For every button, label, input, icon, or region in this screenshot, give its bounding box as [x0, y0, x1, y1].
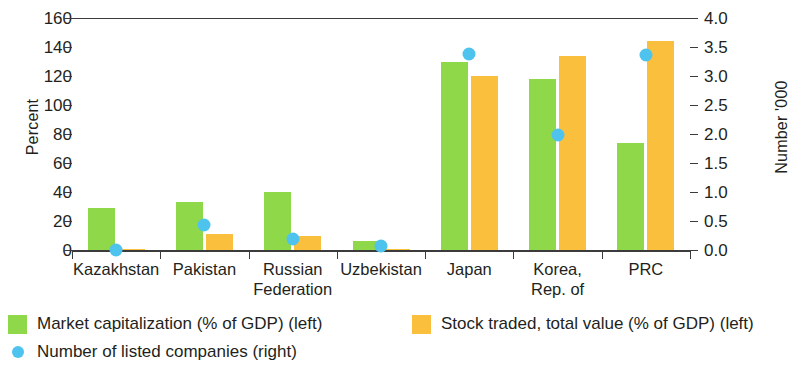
y-axis-right-tick-label: 1.5: [704, 155, 750, 172]
chart-figure: Percent Number '000 02040608010012014016…: [0, 0, 805, 366]
y-axis-right-tick-label: 0.0: [704, 242, 750, 259]
x-axis-tick-mark: [72, 250, 73, 259]
x-axis-tick-mark: [425, 250, 426, 259]
legend-item[interactable]: Market capitalization (% of GDP) (left): [8, 312, 322, 336]
y-axis-left-tick-mark: [64, 105, 72, 106]
y-axis-right-ticks: 0.00.51.01.52.02.53.03.54.0: [690, 18, 750, 250]
marker-listed-companies: [639, 49, 652, 62]
y-axis-left-tick-mark: [64, 47, 72, 48]
bar-group: [353, 18, 410, 250]
x-axis-category-label: Russian Federation: [253, 259, 332, 299]
marker-listed-companies: [551, 128, 564, 141]
plot-area: [72, 18, 690, 250]
y-axis-right-tick-label: 1.0: [704, 184, 750, 201]
marker-listed-companies: [463, 47, 476, 60]
y-axis-right-tick-mark: [690, 163, 698, 164]
y-axis-right-tick-label: 2.5: [704, 97, 750, 114]
marker-listed-companies: [198, 218, 211, 231]
y-axis-left-tick-mark: [64, 163, 72, 164]
bar-group: [441, 18, 498, 250]
bar-group: [176, 18, 233, 250]
legend-label: Number of listed companies (right): [37, 342, 297, 362]
x-axis-tick-mark: [513, 250, 514, 259]
bar-market-capitalization: [88, 208, 115, 250]
bar-market-capitalization: [441, 62, 468, 251]
x-axis-category-label: Japan: [447, 259, 492, 279]
legend-swatch-green-square-icon: [8, 315, 27, 334]
bar-group: [529, 18, 586, 250]
legend-row-secondary: Number of listed companies (right): [8, 340, 805, 364]
y-axis-left-tick-mark: [64, 192, 72, 193]
x-axis-category-label: Kazakhstan: [73, 259, 159, 279]
x-axis-tick-mark: [160, 250, 161, 259]
legend-item[interactable]: Stock traded, total value (% of GDP) (le…: [412, 312, 754, 336]
y-axis-right-tick-label: 4.0: [704, 10, 750, 27]
x-axis-category-label: PRC: [628, 259, 663, 279]
x-axis-tick-mark: [337, 250, 338, 259]
legend-swatch-blue-dot-icon: [12, 346, 24, 358]
x-axis-category-label: Pakistan: [173, 259, 236, 279]
y-axis-left-ticks: 020406080100120140160: [18, 18, 72, 250]
legend-label: Market capitalization (% of GDP) (left): [37, 314, 322, 334]
x-axis-tick-mark: [602, 250, 603, 259]
legend-item[interactable]: Number of listed companies (right): [8, 340, 297, 364]
y-axis-right-tick-mark: [690, 105, 698, 106]
bar-group: [264, 18, 321, 250]
y-axis-right-tick-mark: [690, 221, 698, 222]
y-axis-right-tick-label: 3.0: [704, 68, 750, 85]
bar-stock-traded: [559, 56, 586, 250]
y-axis-right-tick-mark: [690, 18, 698, 19]
y-axis-left-tick-mark: [64, 134, 72, 135]
bar-market-capitalization: [617, 143, 644, 250]
marker-listed-companies: [286, 233, 299, 246]
bar-group: [88, 18, 145, 250]
x-axis-labels: KazakhstanPakistanRussian FederationUzbe…: [72, 259, 690, 303]
bar-stock-traded: [647, 41, 674, 250]
bar-stock-traded: [206, 234, 233, 250]
x-axis-category-label: Uzbekistan: [340, 259, 422, 279]
y-axis-right-tick-mark: [690, 76, 698, 77]
y-axis-right-tick-label: 2.0: [704, 126, 750, 143]
bar-stock-traded: [471, 76, 498, 250]
y-axis-right-title: Number '000: [773, 67, 791, 187]
y-axis-left-tick-mark: [64, 221, 72, 222]
chart-legend: Market capitalization (% of GDP) (left)S…: [8, 312, 805, 366]
y-axis-right-tick-label: 0.5: [704, 213, 750, 230]
y-axis-left-tick-mark: [64, 76, 72, 77]
legend-swatch-orange-square-icon: [412, 315, 431, 334]
legend-label: Stock traded, total value (% of GDP) (le…: [441, 314, 754, 334]
y-axis-left-tick-mark: [64, 18, 72, 19]
y-axis-right-tick-mark: [690, 134, 698, 135]
y-axis-right-tick-mark: [690, 250, 698, 251]
bar-market-capitalization: [529, 79, 556, 250]
legend-row-primary: Market capitalization (% of GDP) (left)S…: [8, 312, 805, 336]
x-axis-tick-mark: [249, 250, 250, 259]
y-axis-right-tick-label: 3.5: [704, 39, 750, 56]
x-axis-tick-mark: [690, 250, 691, 259]
y-axis-right-tick-mark: [690, 47, 698, 48]
x-axis-category-label: Korea, Rep. of: [531, 259, 584, 299]
y-axis-right-tick-mark: [690, 192, 698, 193]
y-axis-left-tick-mark: [64, 250, 72, 251]
bar-group: [617, 18, 674, 250]
